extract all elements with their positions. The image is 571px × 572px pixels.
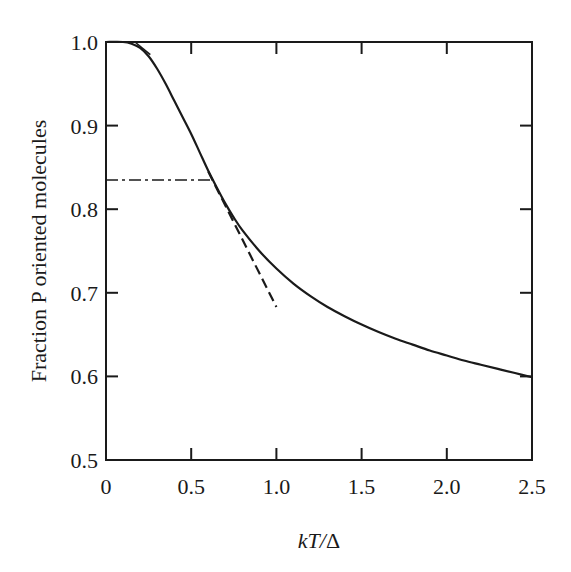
x-axis-title-kt: kT [298,528,322,553]
y-axis-title: Fraction P oriented molecules [26,120,51,383]
x-tick-label: 1.0 [263,474,291,499]
x-tick-label: 0.5 [177,474,205,499]
y-tick-label: 0.7 [71,281,99,306]
axis-ticks [106,42,532,460]
y-tick-label: 0.9 [71,114,99,139]
y-tick-label: 1.0 [71,30,99,55]
x-tick-label: 0 [101,474,112,499]
x-tick-label: 1.5 [348,474,376,499]
x-tick-labels: 00.51.01.52.02.5 [101,474,546,499]
tangent-dashed-line [208,172,276,307]
x-tick-label: 2.0 [433,474,461,499]
plot-frame [106,42,532,460]
tangent-short-line [135,42,150,55]
chart: 00.51.01.52.02.5 0.50.60.70.80.91.0 Frac… [0,0,571,572]
series-layer [106,42,532,377]
y-tick-label: 0.5 [71,448,99,473]
x-tick-label: 2.5 [518,474,546,499]
x-axis-title: kT/Δ [298,528,340,553]
y-tick-label: 0.8 [71,197,99,222]
y-tick-label: 0.6 [71,364,99,389]
y-tick-labels: 0.50.60.70.80.91.0 [71,30,99,473]
x-axis-title-delta: Δ [326,528,340,553]
main-curve [106,42,532,377]
